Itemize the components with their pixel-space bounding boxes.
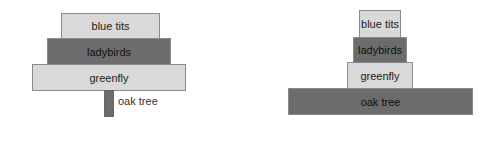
level-oak-tree	[104, 90, 114, 117]
level-greenfly: greenfly	[32, 64, 186, 91]
level-label: ladybirds	[87, 46, 131, 58]
level-label: blue tits	[361, 18, 399, 30]
level-label: blue tits	[92, 20, 130, 32]
level-blue-tits: blue tits	[359, 10, 401, 38]
level-label: greenfly	[360, 70, 399, 82]
level-ladybirds: ladybirds	[47, 38, 171, 65]
level-oak-tree: oak tree	[288, 88, 473, 115]
level-blue-tits: blue tits	[61, 13, 160, 39]
level-greenfly: greenfly	[347, 62, 413, 89]
level-label: ladybirds	[358, 44, 402, 56]
level-label: greenfly	[89, 72, 128, 84]
level-label: oak tree	[361, 96, 401, 108]
oak-tree-label: oak tree	[118, 95, 158, 107]
level-ladybirds: ladybirds	[353, 37, 407, 63]
